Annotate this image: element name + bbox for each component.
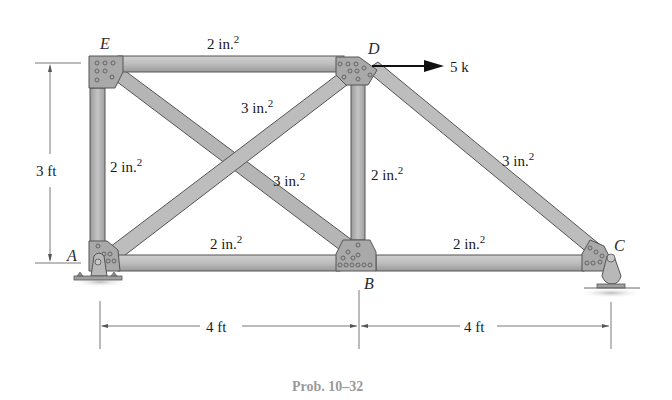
truss-diagram: 5 k E D A B C 2 in.2 2 in.2 3 in.2 3 in.…: [0, 0, 672, 400]
label-ED: 2 in.2: [207, 33, 239, 52]
dimension-height-label: 3 ft: [36, 163, 57, 179]
label-EA: 2 in.2: [110, 156, 142, 175]
node-label-E: E: [99, 35, 110, 52]
dimension-spans: [100, 290, 611, 349]
member-DB: [351, 84, 365, 240]
label-AD: 3 in.2: [241, 97, 273, 116]
label-BC: 2 in.2: [453, 233, 485, 252]
node-label-D: D: [367, 40, 380, 57]
dimension-span-AB-label: 4 ft: [206, 319, 227, 335]
label-AB: 2 in.2: [210, 233, 242, 252]
member-ED: [118, 56, 344, 72]
dimension-span-BC-label: 4 ft: [464, 319, 485, 335]
gusset-E: [89, 56, 123, 88]
node-label-A: A: [66, 247, 77, 264]
node-label-B: B: [364, 275, 374, 292]
figure-caption: Prob. 10–32: [292, 379, 363, 394]
node-label-C: C: [614, 237, 625, 254]
label-EB: 3 in.2: [273, 170, 305, 189]
label-DB: 2 in.2: [371, 164, 403, 183]
load-label: 5 k: [450, 59, 469, 75]
gusset-B: [336, 240, 376, 271]
member-BC: [376, 255, 584, 271]
member-EA: [90, 88, 105, 244]
gusset-D: [336, 57, 377, 85]
label-DC: 3 in.2: [502, 150, 534, 169]
member-DC: [366, 62, 604, 258]
member-AB: [118, 255, 340, 271]
